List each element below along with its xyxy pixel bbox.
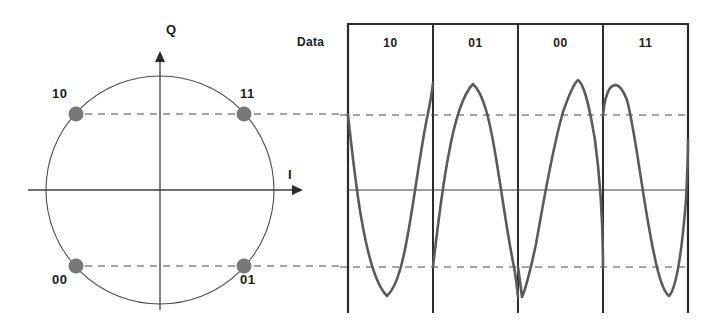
- constellation-point-10[interactable]: [69, 107, 84, 122]
- q-axis-arrowhead: [155, 51, 165, 62]
- constellation-label-10: 10: [52, 86, 67, 101]
- constellation-point-00[interactable]: [69, 259, 84, 274]
- i-axis-arrowhead: [292, 185, 303, 195]
- i-axis: [28, 185, 303, 195]
- q-axis: [155, 51, 165, 310]
- qpsk-figure: 10 11 00 01 Q I Data 10 01 00 11: [0, 0, 711, 328]
- i-axis-label: I: [288, 167, 292, 182]
- q-axis-label: Q: [166, 22, 176, 37]
- data-row-label: Data: [297, 35, 324, 49]
- constellation-label-01: 01: [240, 272, 255, 287]
- constellation-point-11[interactable]: [237, 107, 252, 122]
- waveform-symbol-label-3: 11: [603, 36, 688, 50]
- constellation-diagram: [28, 51, 340, 310]
- waveform-symbol-label-0: 10: [348, 36, 433, 50]
- waveform-panel: [340, 24, 690, 313]
- waveform-symbol-label-2: 00: [518, 36, 603, 50]
- waveform-symbol-label-1: 01: [433, 36, 518, 50]
- constellation-label-11: 11: [240, 86, 255, 101]
- constellation-label-00: 00: [52, 272, 67, 287]
